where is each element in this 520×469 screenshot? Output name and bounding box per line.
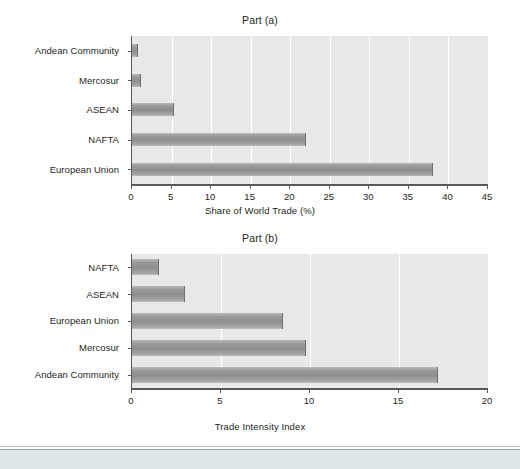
category-label-row: ASEAN [0, 95, 125, 125]
category-label: European Union [50, 164, 119, 175]
gridline [488, 36, 489, 184]
figure-container: Part (a) Andean CommunityMercosurASEANNA… [0, 0, 520, 440]
panel-b-category-labels: NAFTAASEANEuropean UnionMercosurAndean C… [0, 254, 125, 388]
x-axis-tick-label: 30 [363, 191, 374, 202]
x-axis-tick-label: 15 [393, 395, 404, 406]
y-axis-tick [128, 80, 132, 81]
bar [132, 367, 438, 383]
y-axis-tick [128, 294, 132, 295]
page-bottom-strip [0, 449, 520, 469]
panel-b-plot-area [131, 254, 488, 388]
category-label-row: Andean Community [0, 36, 125, 66]
page-divider [0, 446, 520, 447]
x-axis-tick-label: 0 [128, 191, 133, 202]
bar-row [132, 95, 488, 125]
bar-row [132, 36, 488, 66]
bar-row [132, 308, 488, 335]
bar-row [132, 334, 488, 361]
bar [132, 313, 283, 329]
x-axis-tick [487, 184, 488, 189]
category-label: European Union [50, 315, 119, 326]
bar [132, 340, 306, 356]
category-label-row: ASEAN [0, 281, 125, 308]
y-axis-tick [128, 110, 132, 111]
x-axis-tick [210, 184, 211, 189]
bar [132, 163, 433, 176]
panel-a-title: Part (a) [0, 14, 520, 26]
x-axis-tick-label: 5 [168, 191, 173, 202]
category-label-row: NAFTA [0, 125, 125, 155]
x-axis-tick [220, 388, 221, 393]
x-axis-tick-label: 20 [482, 395, 493, 406]
category-label-row: European Union [0, 154, 125, 184]
y-axis-tick [128, 348, 132, 349]
x-axis-tick-label: 25 [323, 191, 334, 202]
panel-a-plot-area [131, 36, 488, 184]
y-axis-tick [128, 51, 132, 52]
bar [132, 259, 159, 275]
category-label-row: European Union [0, 308, 125, 335]
bar [132, 44, 138, 57]
x-axis-tick-label: 40 [442, 191, 453, 202]
panel-a-category-labels: Andean CommunityMercosurASEANNAFTAEurope… [0, 36, 125, 184]
y-axis-tick [128, 140, 132, 141]
gridline [488, 254, 489, 388]
bar [132, 133, 306, 146]
category-label-row: NAFTA [0, 254, 125, 281]
x-axis-tick [329, 184, 330, 189]
category-label: Andean Community [35, 369, 119, 380]
x-axis-tick-label: 0 [128, 395, 133, 406]
bar [132, 74, 141, 87]
panel-a-bar-rows [132, 36, 488, 184]
bar-row [132, 154, 488, 184]
category-label-row: Mercosur [0, 66, 125, 96]
bar-row [132, 361, 488, 388]
category-label: ASEAN [87, 289, 119, 300]
category-label: NAFTA [88, 262, 119, 273]
x-axis-tick-label: 45 [482, 191, 493, 202]
bar [132, 286, 185, 302]
category-label-row: Mercosur [0, 334, 125, 361]
x-axis-tick [447, 184, 448, 189]
y-axis-tick [128, 375, 132, 376]
bar-row [132, 125, 488, 155]
y-axis-tick [128, 267, 132, 268]
bar-row [132, 254, 488, 281]
category-label: NAFTA [88, 134, 119, 145]
x-axis-tick [408, 184, 409, 189]
category-label: ASEAN [87, 104, 119, 115]
x-axis-tick [171, 184, 172, 189]
x-axis-tick-label: 20 [284, 191, 295, 202]
x-axis-tick [487, 388, 488, 393]
panel-b-x-axis-title: Trade Intensity Index [0, 421, 520, 432]
panel-a-x-axis-title: Share of World Trade (%) [0, 205, 520, 216]
x-axis-tick [368, 184, 369, 189]
bar [132, 103, 174, 116]
panel-b-bar-rows [132, 254, 488, 388]
x-axis-tick-label: 10 [304, 395, 315, 406]
category-label-row: Andean Community [0, 361, 125, 388]
y-axis-tick [128, 169, 132, 170]
category-label: Mercosur [79, 75, 119, 86]
panel-a-x-axis: 051015202530354045 [131, 184, 488, 186]
category-label: Andean Community [35, 45, 119, 56]
bar-row [132, 281, 488, 308]
x-axis-tick [289, 184, 290, 189]
category-label: Mercosur [79, 342, 119, 353]
x-axis-tick-label: 5 [217, 395, 222, 406]
x-axis-tick [398, 388, 399, 393]
x-axis-tick-label: 10 [205, 191, 216, 202]
bar-row [132, 66, 488, 96]
x-axis-tick-label: 15 [244, 191, 255, 202]
x-axis-tick [250, 184, 251, 189]
x-axis-tick [131, 184, 132, 189]
panel-b-x-axis: 05101520 [131, 388, 488, 390]
panel-b-title: Part (b) [0, 232, 520, 244]
x-axis-tick [309, 388, 310, 393]
y-axis-tick [128, 321, 132, 322]
x-axis-tick-label: 35 [403, 191, 414, 202]
x-axis-tick [131, 388, 132, 393]
